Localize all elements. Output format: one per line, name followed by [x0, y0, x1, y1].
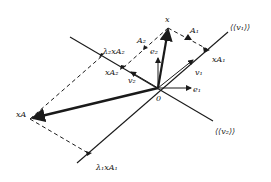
v2-span-line — [70, 37, 213, 121]
label-v2: v₂ — [128, 76, 136, 85]
label-e1: e₁ — [193, 85, 201, 94]
label-A2: A₂ — [136, 36, 146, 45]
label-xA2: xA₂ — [105, 68, 119, 77]
point-lambda1xA1-marker — [86, 151, 92, 156]
label-xA1: xA₁ — [212, 55, 226, 64]
vector-v1 — [158, 60, 193, 88]
vector-diagram: ⟨⟨v₁⟩⟩ ⟨⟨v₂⟩⟩ 0 x e₂ e₁ v₁ v₂ xA xA₁ xA₂… — [0, 0, 271, 182]
label-lambda2-xA2: λ₂xA₂ — [102, 47, 125, 56]
label-lambda1-xA1: λ₁xA₁ — [95, 163, 118, 172]
label-origin: 0 — [156, 94, 161, 103]
label-xA: xA — [16, 110, 27, 119]
label-v1: v₁ — [195, 68, 203, 77]
label-e2: e₂ — [150, 47, 158, 56]
label-v1-span: ⟨⟨v₁⟩⟩ — [230, 23, 250, 32]
label-v2-span: ⟨⟨v₂⟩⟩ — [215, 127, 235, 136]
label-A1: A₁ — [189, 26, 199, 35]
dash-xA-to-lambda1xA1 — [30, 119, 88, 153]
label-x: x — [165, 15, 170, 24]
vector-x — [158, 30, 168, 88]
vector-xA — [33, 88, 158, 118]
point-A2-marker — [143, 45, 148, 50]
